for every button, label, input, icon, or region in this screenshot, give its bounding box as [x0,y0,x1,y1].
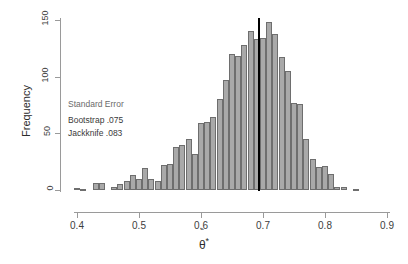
annotation-title: Standard Error [68,98,124,111]
histogram-figure: 050100150 Frequency 0.40.50.60.70.80.9 ˆ… [0,0,408,264]
reference-line [258,18,260,191]
histogram-bars [0,0,408,264]
standard-error-annotation: Standard Error Bootstrap .075 Jackknife … [68,98,124,140]
histogram-bar [99,183,105,190]
annotation-row-jackknife: Jackknife .083 [68,127,124,140]
histogram-bar [341,187,347,190]
histogram-bar [80,189,86,191]
histogram-bar [353,189,359,191]
annotation-row-bootstrap: Bootstrap .075 [68,114,124,127]
